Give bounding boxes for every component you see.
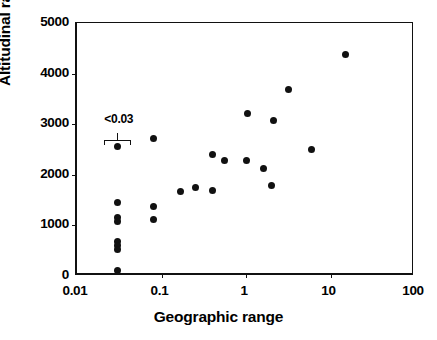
x-tick-label: 0.1 bbox=[130, 284, 190, 298]
data-point bbox=[150, 135, 157, 142]
data-point bbox=[209, 187, 216, 194]
data-point bbox=[114, 143, 121, 150]
data-point bbox=[221, 157, 228, 164]
y-tick-label: 0 bbox=[17, 268, 69, 282]
y-tick bbox=[72, 74, 77, 75]
bracket-horizontal bbox=[104, 140, 130, 141]
y-tick-label: 2000 bbox=[17, 167, 69, 181]
data-point bbox=[192, 184, 199, 191]
data-point bbox=[114, 246, 121, 253]
data-point bbox=[342, 51, 349, 58]
data-point bbox=[270, 117, 277, 124]
data-point bbox=[177, 188, 184, 195]
y-tick-label: 4000 bbox=[17, 66, 69, 80]
data-point bbox=[114, 199, 121, 206]
data-point bbox=[308, 146, 315, 153]
x-tick bbox=[331, 273, 332, 278]
y-tick bbox=[72, 225, 77, 226]
y-tick-label: 1000 bbox=[17, 217, 69, 231]
x-tick bbox=[246, 273, 247, 278]
y-axis-title: Altitudinal range bbox=[0, 0, 14, 86]
x-tick-label: 1 bbox=[214, 284, 274, 298]
data-point bbox=[268, 182, 275, 189]
data-point bbox=[209, 151, 216, 158]
bracket-left-tick bbox=[104, 140, 105, 145]
y-tick bbox=[72, 124, 77, 125]
y-tick bbox=[72, 175, 77, 176]
data-point bbox=[244, 110, 251, 117]
data-point bbox=[285, 86, 292, 93]
x-tick-label: 10 bbox=[299, 284, 359, 298]
bracket-stem bbox=[117, 133, 118, 140]
x-tick-label: 0.01 bbox=[45, 284, 105, 298]
data-point bbox=[150, 216, 157, 223]
annotation-label: <0.03 bbox=[104, 112, 133, 126]
y-tick-label: 5000 bbox=[17, 15, 69, 29]
data-point bbox=[150, 203, 157, 210]
y-tick-label: 3000 bbox=[17, 116, 69, 130]
x-axis-title: Geographic range bbox=[0, 308, 437, 326]
data-point bbox=[114, 267, 121, 274]
x-tick-label: 100 bbox=[383, 284, 437, 298]
x-tick bbox=[162, 273, 163, 278]
plot-area: <0.03 bbox=[75, 22, 413, 275]
bracket-right-tick bbox=[130, 140, 131, 145]
data-point bbox=[243, 157, 250, 164]
data-point bbox=[114, 218, 121, 225]
data-point bbox=[260, 165, 267, 172]
scatter-plot-figure: Altitudinal range <0.03 0100020003000400… bbox=[0, 0, 437, 340]
